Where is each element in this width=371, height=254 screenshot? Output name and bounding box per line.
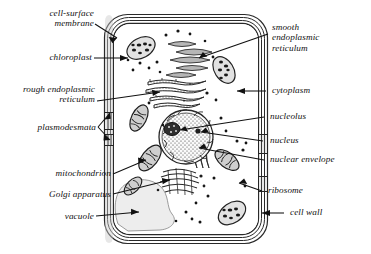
label-vacuole: vacuole bbox=[6, 211, 94, 221]
label-plasmodesmata: plasmodesmata bbox=[2, 122, 96, 132]
label-cell-wall: cell wall bbox=[290, 207, 371, 217]
label-cell-surface-membrane: cell-surface membrane bbox=[6, 8, 94, 29]
label-mitochondrion: mitochondrion bbox=[6, 168, 111, 178]
nucleolus-shape bbox=[164, 123, 180, 136]
label-chloroplast: chloroplast bbox=[6, 52, 92, 62]
label-rough-endoplasmic-reticulum: rough endoplasmic reticulum bbox=[2, 84, 95, 105]
label-cytoplasm: cytoplasm bbox=[272, 85, 364, 95]
label-nuclear-envelope: nuclear envelope bbox=[270, 154, 370, 164]
cell-diagram: cell-surface membrane chloroplast rough … bbox=[0, 0, 371, 254]
nuclear-pore bbox=[195, 128, 200, 133]
label-smooth-endoplasmic-reticulum: smooth endoplasmic reticulum bbox=[272, 22, 368, 53]
label-nucleolus: nucleolus bbox=[270, 111, 362, 121]
nucleus-shape bbox=[159, 110, 213, 164]
label-nucleus: nucleus bbox=[270, 135, 362, 145]
label-golgi-apparatus: Golgi apparatus bbox=[6, 189, 111, 199]
label-ribosome: ribosome bbox=[268, 185, 360, 195]
